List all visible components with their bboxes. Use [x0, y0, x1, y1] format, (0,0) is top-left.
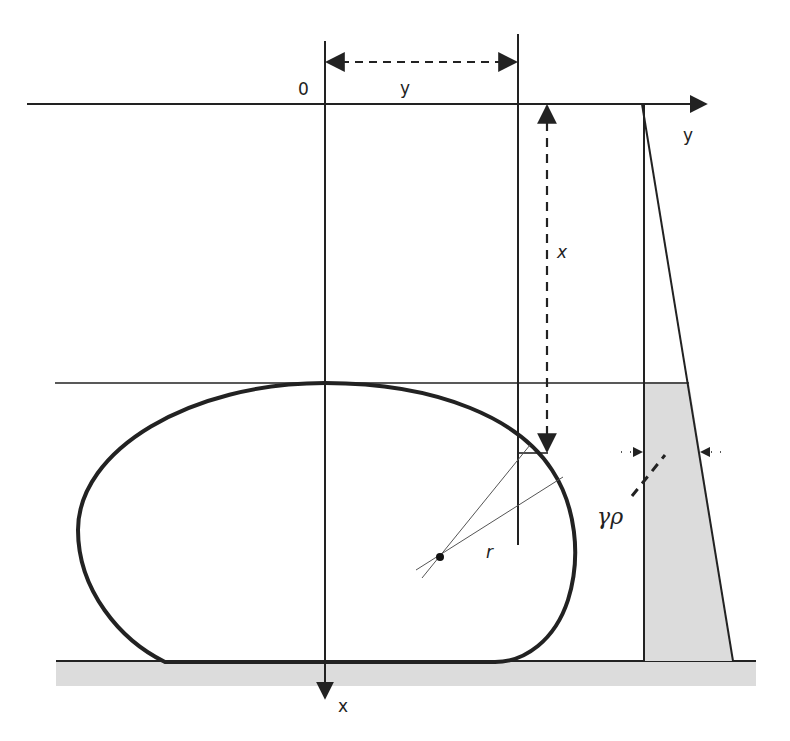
y-axis-label: y — [683, 125, 693, 145]
pressure-label: γρ — [597, 504, 623, 529]
radius-label: r — [486, 542, 494, 562]
x-dimension-label: x — [556, 242, 568, 262]
drop-diagram: 0 y y x x r γρ — [0, 0, 790, 741]
drop-outline — [78, 383, 575, 662]
origin-label: 0 — [298, 79, 309, 99]
substrate — [56, 661, 756, 686]
pressure-distribution-area — [644, 382, 733, 661]
center-of-curvature-point — [436, 553, 444, 561]
x-axis-label: x — [338, 696, 348, 716]
y-dimension-label: y — [400, 78, 410, 98]
